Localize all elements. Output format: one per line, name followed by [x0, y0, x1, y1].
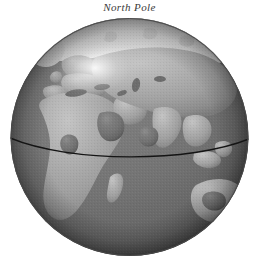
figure-caption: North Pole: [0, 1, 259, 14]
globe-figure: North Pole: [0, 0, 259, 260]
globe-image: [10, 17, 249, 256]
globe-svg: [10, 17, 249, 256]
